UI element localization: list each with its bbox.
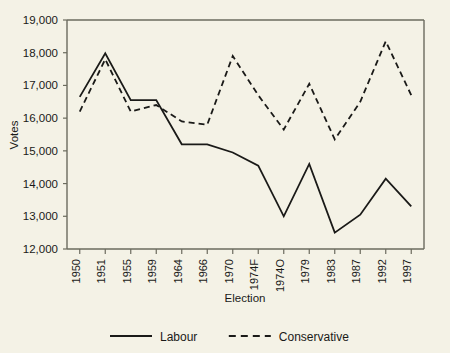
x-tick-label: 1987 bbox=[350, 259, 362, 283]
x-tick-label: 1983 bbox=[325, 259, 337, 283]
y-tick-label: 17,000 bbox=[23, 79, 58, 91]
x-tick-label: 1992 bbox=[376, 259, 388, 283]
y-tick-label: 18,000 bbox=[23, 47, 58, 59]
x-tick-label: 1964 bbox=[172, 259, 184, 283]
x-axis-title: Election bbox=[225, 292, 266, 304]
x-tick-label: 1966 bbox=[197, 259, 209, 283]
legend-label-conservative: Conservative bbox=[279, 330, 349, 344]
x-tick-label: 1950 bbox=[70, 259, 82, 283]
y-tick-label: 13,000 bbox=[23, 210, 58, 222]
x-tick-label: 1974F bbox=[248, 259, 260, 290]
y-axis-title: Votes bbox=[8, 120, 20, 149]
votes-by-election-line-chart: 12,00013,00014,00015,00016,00017,00018,0… bbox=[0, 0, 450, 353]
y-tick-label: 15,000 bbox=[23, 145, 58, 157]
x-tick-label: 1959 bbox=[146, 259, 158, 283]
x-tick-label: 1974O bbox=[274, 259, 286, 292]
x-tick-label: 1951 bbox=[95, 259, 107, 283]
x-tick-label: 1997 bbox=[401, 259, 413, 283]
legend-label-labour: Labour bbox=[160, 330, 197, 344]
y-tick-label: 19,000 bbox=[23, 14, 58, 26]
y-tick-label: 16,000 bbox=[23, 112, 58, 124]
chart-container: 12,00013,00014,00015,00016,00017,00018,0… bbox=[0, 0, 450, 353]
y-tick-label: 12,000 bbox=[23, 243, 58, 255]
x-tick-label: 1970 bbox=[223, 259, 235, 283]
x-tick-label: 1955 bbox=[121, 259, 133, 283]
x-tick-label: 1979 bbox=[299, 259, 311, 283]
y-tick-label: 14,000 bbox=[23, 178, 58, 190]
